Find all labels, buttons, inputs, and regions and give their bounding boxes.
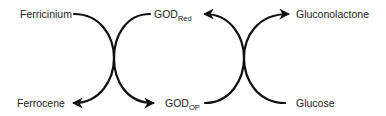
label-god-ox-main: GOD <box>165 97 189 109</box>
label-gluconolactone: Gluconolactone <box>296 8 369 20</box>
redox-cycle-diagram: Ferricinium Ferrocene GODRed GODOP Gluco… <box>0 0 386 116</box>
label-ferrocene: Ferrocene <box>17 97 65 109</box>
label-god-red-main: GOD <box>154 8 178 20</box>
godox-to-godred-arrow <box>205 14 244 103</box>
label-god-red: GODRed <box>154 8 192 23</box>
label-god-ox-sub: OP <box>189 103 200 112</box>
glucose-to-gluconolactone-arrow <box>244 14 288 103</box>
label-god-red-sub: Red <box>178 14 192 23</box>
ferricinium-to-ferrocene-arrow <box>74 14 114 103</box>
label-god-ox: GODOP <box>165 97 200 112</box>
label-ferricinium: Ferricinium <box>20 8 72 20</box>
label-glucose: Glucose <box>296 97 335 109</box>
godred-to-godox-arrow <box>114 14 153 103</box>
